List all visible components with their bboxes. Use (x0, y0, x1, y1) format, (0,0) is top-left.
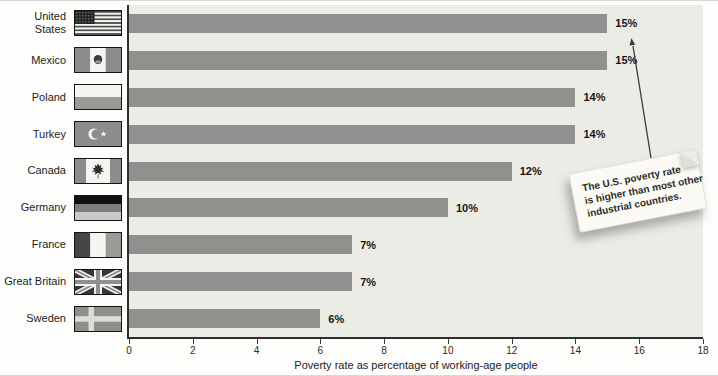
x-tick-label: 0 (126, 345, 132, 356)
bar-value-turkey: 14% (583, 128, 605, 140)
country-label-canada: Canada (0, 153, 68, 190)
country-label-france: France (0, 226, 68, 263)
bar-united-states (129, 14, 607, 33)
x-tick-label: 10 (442, 345, 453, 356)
bar-mexico (129, 51, 607, 70)
x-tick-mark (193, 339, 194, 344)
bar-great-britain (129, 272, 352, 291)
flag-se-icon (74, 306, 122, 332)
x-tick-label: 16 (634, 345, 645, 356)
x-tick-mark (703, 339, 704, 344)
bar-value-great-britain: 7% (360, 276, 376, 288)
x-tick-mark (320, 339, 321, 344)
x-tick-label: 12 (506, 345, 517, 356)
x-tick-mark (639, 339, 640, 344)
x-tick-label: 2 (190, 345, 196, 356)
x-tick-label: 6 (318, 345, 324, 356)
bar-value-united-states: 15% (615, 17, 637, 29)
x-axis-line (127, 337, 703, 339)
flag-pl-icon (74, 84, 122, 110)
flag-mx-icon (74, 47, 122, 73)
country-label-sweden: Sweden (0, 300, 68, 337)
x-tick-label: 8 (381, 345, 387, 356)
bar-germany (129, 198, 448, 217)
bar-sweden (129, 309, 320, 328)
folded-corner-icon (680, 149, 699, 168)
x-tick-mark (575, 339, 576, 344)
bar-turkey (129, 125, 575, 144)
x-axis-title: Poverty rate as percentage of working-ag… (129, 359, 703, 371)
bar-value-germany: 10% (456, 202, 478, 214)
bar-value-france: 7% (360, 239, 376, 251)
country-label-germany: Germany (0, 189, 68, 226)
x-tick-mark (257, 339, 258, 344)
x-tick-mark (512, 339, 513, 344)
x-tick-label: 18 (697, 345, 708, 356)
x-tick-mark (384, 339, 385, 344)
country-label-united-states: UnitedStates (0, 5, 68, 42)
bar-value-poland: 14% (583, 91, 605, 103)
x-tick-label: 14 (570, 345, 581, 356)
country-label-turkey: Turkey (0, 116, 68, 153)
country-label-great-britain: Great Britain (0, 263, 68, 300)
flag-tr-icon (74, 121, 122, 147)
bar-poland (129, 88, 575, 107)
x-tick-label: 4 (254, 345, 260, 356)
flag-gb-icon (74, 269, 122, 295)
flag-ca-icon (74, 158, 122, 184)
country-label-poland: Poland (0, 79, 68, 116)
flag-us-icon (74, 10, 122, 36)
country-label-mexico: Mexico (0, 42, 68, 79)
flag-fr-icon (74, 232, 122, 258)
x-tick-mark (448, 339, 449, 344)
x-tick-mark (129, 339, 130, 344)
bar-value-mexico: 15% (615, 54, 637, 66)
bar-value-canada: 12% (520, 165, 542, 177)
bar-value-sweden: 6% (328, 313, 344, 325)
bar-france (129, 235, 352, 254)
poverty-rate-bar-chart: UnitedStates15%Mexico 15%Poland14%Turkey… (0, 0, 718, 376)
flag-de-icon (74, 195, 122, 221)
bar-canada (129, 162, 512, 181)
